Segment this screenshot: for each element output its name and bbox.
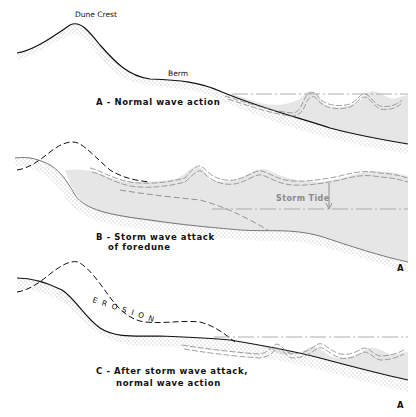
- beach-profile-diagram: Dune Crest Berm A - Normal wave action S…: [0, 0, 416, 417]
- sand-layer: [17, 24, 408, 154]
- erosion-label: EROSION: [91, 295, 160, 325]
- marker-a-c: A: [397, 400, 404, 410]
- panel-a-caption: A - Normal wave action: [96, 97, 220, 107]
- panel-b-caption-1: B - Storm wave attack: [96, 232, 215, 242]
- panel-c: EROSION C - After storm wave attack, nor…: [17, 262, 408, 410]
- panel-a: Dune Crest Berm A - Normal wave action: [17, 10, 408, 154]
- dune-crest-label: Dune Crest: [75, 10, 117, 19]
- panel-b-caption-2: of foredune: [108, 242, 171, 252]
- original-dune-profile-c: [17, 262, 235, 342]
- berm-label: Berm: [168, 69, 188, 78]
- panel-c-caption-1: C - After storm wave attack,: [96, 366, 248, 376]
- water-body: [222, 91, 408, 144]
- marker-a-b: A: [397, 263, 404, 273]
- panel-c-caption-2: normal wave action: [116, 378, 221, 388]
- panel-b: Storm Tide B - Storm wave attack of fore…: [15, 142, 408, 273]
- storm-tide-label: Storm Tide: [276, 194, 330, 203]
